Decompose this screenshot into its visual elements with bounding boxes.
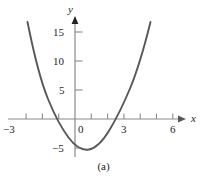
figure-caption: (a) [0,161,207,172]
parabola-plot [0,0,207,184]
y-axis-label: y [68,4,73,15]
y-tick-label-10: 10 [53,56,64,67]
y-tick-label-5: 5 [59,85,65,96]
x-axis-arrowhead [178,115,186,122]
x-tick-label-3: 3 [121,124,127,135]
y-tick-label-minus-5: −5 [52,143,64,154]
x-tick-label-minus-3: −3 [3,124,15,135]
y-tick-label-15: 15 [53,27,64,38]
y-axis-arrowhead [72,16,79,24]
figure-container: 15 10 5 −5 −3 0 3 6 y x (a) [0,0,207,184]
x-tick-label-6: 6 [170,124,176,135]
parabola-curve [28,22,151,150]
x-tick-label-0: 0 [78,124,84,135]
x-axis-ticks [26,114,173,120]
x-axis-label: x [191,113,196,124]
